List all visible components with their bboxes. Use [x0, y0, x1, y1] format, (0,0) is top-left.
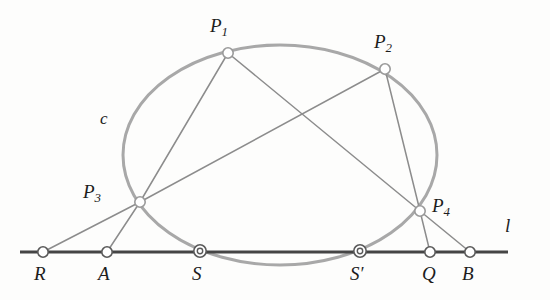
label-p2: P2	[374, 32, 392, 55]
point-marker-p3	[135, 197, 145, 207]
segment-p3-r	[43, 202, 140, 252]
label-q: Q	[422, 264, 436, 283]
label-s-prime: S′	[350, 264, 363, 283]
label-s-prime-mark: ′	[360, 264, 364, 284]
chord-p2-p3	[140, 69, 385, 202]
point-marker-r	[38, 247, 48, 257]
label-p3: P3	[83, 182, 101, 205]
label-p1-subscript: 1	[222, 24, 228, 39]
label-s: S	[192, 264, 202, 283]
conic-point-markers	[135, 48, 425, 216]
point-marker-b	[465, 247, 475, 257]
conic-curve-c	[123, 45, 437, 265]
geometry-figure: c l P1 P2 P3 P4 R A S S′ Q B	[0, 0, 550, 300]
point-marker-s-inner	[197, 248, 202, 253]
label-line-l: l	[505, 216, 510, 235]
label-r: R	[34, 264, 46, 283]
label-p3-subscript: 3	[95, 190, 101, 205]
point-marker-s-prime-inner	[357, 248, 362, 253]
point-marker-p1	[223, 48, 233, 58]
label-p4-subscript: 4	[444, 204, 450, 219]
chord-p2-p4	[385, 69, 420, 211]
point-marker-a	[102, 247, 112, 257]
point-marker-q	[425, 247, 435, 257]
diagram-canvas	[0, 0, 550, 300]
segment-p3-a	[107, 202, 140, 252]
label-conic-c: c	[100, 110, 108, 127]
label-a: A	[98, 264, 110, 283]
label-p2-subscript: 2	[386, 40, 392, 55]
point-marker-p4	[415, 206, 425, 216]
label-p4: P4	[432, 196, 450, 219]
point-marker-p2	[380, 64, 390, 74]
label-b: B	[462, 264, 474, 283]
label-p1: P1	[210, 16, 228, 39]
chord-p1-p3	[140, 53, 228, 202]
